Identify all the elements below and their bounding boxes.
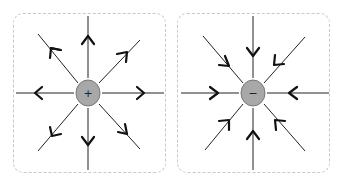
negative-charge: − xyxy=(241,80,265,106)
positive-charge: + xyxy=(76,80,100,106)
field-diagram: + − xyxy=(0,0,343,182)
svg-text:+: + xyxy=(83,87,92,100)
svg-text:−: − xyxy=(248,87,257,100)
